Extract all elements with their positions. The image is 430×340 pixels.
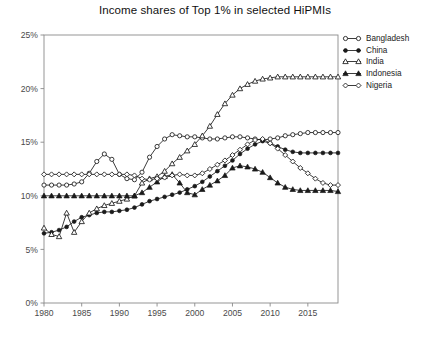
data-point-marker xyxy=(155,144,159,148)
legend-item-label: Bangladesh xyxy=(366,33,409,44)
legend-marker-icon xyxy=(341,56,363,67)
data-point-marker xyxy=(193,135,197,139)
data-point-marker xyxy=(283,134,287,138)
data-point-marker xyxy=(237,86,242,91)
data-point-marker xyxy=(328,130,332,134)
data-point-marker xyxy=(208,175,212,179)
y-axis-tick-label: 0% xyxy=(26,298,39,308)
series-line xyxy=(44,133,338,186)
x-axis-tick-label: 2005 xyxy=(223,308,242,318)
data-point-marker xyxy=(200,180,204,184)
data-point-marker xyxy=(207,123,212,128)
legend-marker-icon xyxy=(341,68,363,79)
series-bangladesh xyxy=(42,130,340,187)
data-point-marker xyxy=(215,178,220,183)
data-point-marker xyxy=(140,202,144,206)
series-indonesia xyxy=(41,163,340,198)
data-point-marker xyxy=(306,151,310,155)
data-point-marker xyxy=(147,185,152,190)
data-point-marker xyxy=(72,172,77,177)
y-axis-tick-label: 25% xyxy=(21,30,39,40)
legend-marker-icon xyxy=(341,45,363,56)
x-axis-tick-label: 2000 xyxy=(185,308,204,318)
data-point-marker xyxy=(170,193,174,197)
data-point-marker xyxy=(57,183,61,187)
y-axis-tick-label: 20% xyxy=(21,84,39,94)
data-point-marker xyxy=(320,180,325,185)
series-india xyxy=(41,74,340,239)
data-point-marker xyxy=(223,136,227,140)
legend-item-label: India xyxy=(366,56,384,67)
data-point-marker xyxy=(306,130,310,134)
data-point-marker xyxy=(192,173,197,178)
data-point-marker xyxy=(64,210,69,215)
series-nigeria xyxy=(42,136,341,187)
data-point-marker xyxy=(200,171,205,176)
data-point-marker xyxy=(125,208,129,212)
data-point-marker xyxy=(237,163,242,168)
data-point-marker xyxy=(313,130,317,134)
data-point-marker xyxy=(267,175,272,180)
data-point-marker xyxy=(329,151,333,155)
data-point-marker xyxy=(80,180,84,184)
data-point-marker xyxy=(42,183,46,187)
y-axis-tick-label: 15% xyxy=(21,137,39,147)
data-point-marker xyxy=(72,220,76,224)
x-axis-tick-label: 1995 xyxy=(148,308,167,318)
data-point-marker xyxy=(163,195,167,199)
data-point-marker xyxy=(215,137,219,141)
data-point-marker xyxy=(95,211,99,215)
data-point-marker xyxy=(132,173,137,178)
data-point-marker xyxy=(321,130,325,134)
data-point-marker xyxy=(110,157,114,161)
legend-item-label: Nigeria xyxy=(366,80,392,91)
data-point-marker xyxy=(117,209,121,213)
legend-item-nigeria[interactable]: Nigeria xyxy=(341,79,429,91)
data-point-marker xyxy=(298,132,302,136)
data-point-marker xyxy=(336,151,340,155)
data-point-marker xyxy=(298,151,302,155)
legend-marker-icon xyxy=(341,80,363,91)
data-point-marker xyxy=(95,159,99,163)
data-point-marker xyxy=(177,172,182,177)
data-point-marker xyxy=(41,225,46,230)
data-point-marker xyxy=(94,206,99,211)
x-axis-tick-label: 1980 xyxy=(34,308,53,318)
data-point-marker xyxy=(140,170,144,174)
data-point-marker xyxy=(238,135,242,139)
y-axis-tick-label: 10% xyxy=(21,191,39,201)
data-point-marker xyxy=(94,172,99,177)
data-point-marker xyxy=(276,136,280,140)
data-point-marker xyxy=(170,133,174,137)
data-point-marker xyxy=(155,197,159,201)
data-point-marker xyxy=(193,184,197,188)
series-china xyxy=(42,139,340,235)
legend-marker-icon xyxy=(341,33,363,44)
data-point-marker xyxy=(57,172,62,177)
data-point-marker xyxy=(163,137,167,141)
figure: Income shares of Top 1% in selected HiPM… xyxy=(0,0,430,340)
data-point-marker xyxy=(291,133,295,137)
data-point-marker xyxy=(185,173,190,178)
data-point-marker xyxy=(49,172,54,177)
data-point-marker xyxy=(148,199,152,203)
data-point-marker xyxy=(336,130,340,134)
data-point-marker xyxy=(207,167,212,172)
data-point-marker xyxy=(133,206,137,210)
data-point-marker xyxy=(200,187,205,192)
data-point-marker xyxy=(230,135,234,139)
series-line xyxy=(44,141,338,233)
data-point-marker xyxy=(321,151,325,155)
legend-item-china[interactable]: China xyxy=(341,45,429,57)
data-point-marker xyxy=(291,150,295,154)
plot-frame xyxy=(44,35,338,303)
legend-item-label: Indonesia xyxy=(366,68,402,79)
x-axis-tick-label: 1990 xyxy=(110,308,129,318)
legend-item-bangladesh[interactable]: Bangladesh xyxy=(341,33,429,45)
legend-item-label: China xyxy=(366,45,387,56)
legend-item-india[interactable]: India xyxy=(341,56,429,68)
series-group xyxy=(41,74,340,239)
data-point-marker xyxy=(147,155,151,159)
data-point-marker xyxy=(231,159,235,163)
legend-item-indonesia[interactable]: Indonesia xyxy=(341,68,429,80)
